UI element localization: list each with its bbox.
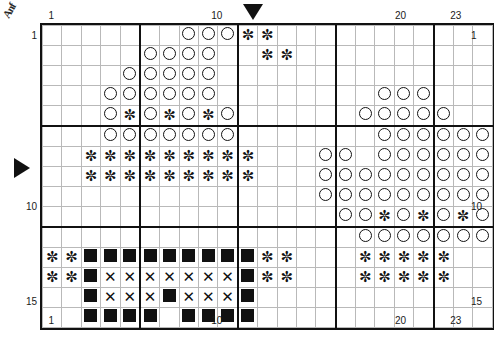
pattern-cell[interactable] — [277, 227, 296, 248]
pattern-cell[interactable] — [277, 268, 296, 288]
pattern-cell[interactable] — [375, 86, 394, 106]
pattern-cell[interactable] — [199, 126, 218, 147]
pattern-cell[interactable] — [81, 187, 100, 207]
pattern-cell[interactable] — [101, 308, 120, 328]
pattern-cell[interactable] — [296, 106, 315, 127]
pattern-cell[interactable] — [453, 167, 472, 187]
pattern-cell[interactable] — [316, 268, 336, 288]
pattern-cell[interactable] — [453, 227, 472, 248]
pattern-cell[interactable] — [199, 66, 218, 86]
pattern-cell[interactable] — [375, 147, 394, 167]
pattern-cell[interactable] — [336, 268, 356, 288]
pattern-cell[interactable] — [414, 106, 434, 127]
pattern-cell[interactable] — [394, 187, 413, 207]
pattern-cell[interactable] — [473, 86, 492, 106]
pattern-cell[interactable] — [394, 106, 413, 127]
pattern-cell[interactable] — [160, 187, 179, 207]
pattern-cell[interactable] — [81, 167, 100, 187]
pattern-cell[interactable] — [434, 167, 454, 187]
pattern-cell[interactable] — [218, 187, 238, 207]
pattern-cell[interactable] — [62, 26, 81, 46]
pattern-cell[interactable] — [43, 288, 62, 308]
pattern-cell[interactable] — [160, 207, 179, 228]
pattern-cell[interactable] — [43, 167, 62, 187]
pattern-cell[interactable] — [81, 248, 100, 268]
pattern-cell[interactable] — [81, 147, 100, 167]
pattern-cell[interactable] — [258, 308, 277, 328]
pattern-cell[interactable] — [160, 268, 179, 288]
pattern-cell[interactable] — [43, 26, 62, 46]
pattern-cell[interactable] — [179, 26, 198, 46]
pattern-cell[interactable] — [62, 227, 81, 248]
pattern-cell[interactable] — [199, 227, 218, 248]
pattern-cell[interactable] — [179, 46, 198, 66]
pattern-cell[interactable] — [296, 288, 315, 308]
pattern-cell[interactable] — [160, 106, 179, 127]
pattern-cell[interactable] — [101, 288, 120, 308]
pattern-cell[interactable] — [473, 227, 492, 248]
pattern-cell[interactable] — [258, 248, 277, 268]
pattern-cell[interactable] — [316, 147, 336, 167]
pattern-cell[interactable] — [238, 26, 258, 46]
pattern-cell[interactable] — [453, 126, 472, 147]
pattern-cell[interactable] — [356, 288, 375, 308]
pattern-cell[interactable] — [453, 46, 472, 66]
pattern-cell[interactable] — [277, 207, 296, 228]
pattern-cell[interactable] — [218, 288, 238, 308]
pattern-cell[interactable] — [62, 207, 81, 228]
pattern-cell[interactable] — [101, 26, 120, 46]
pattern-cell[interactable] — [199, 288, 218, 308]
pattern-cell[interactable] — [179, 268, 198, 288]
pattern-cell[interactable] — [356, 106, 375, 127]
pattern-cell[interactable] — [296, 308, 315, 328]
pattern-cell[interactable] — [336, 207, 356, 228]
pattern-cell[interactable] — [62, 86, 81, 106]
pattern-cell[interactable] — [414, 207, 434, 228]
pattern-cell[interactable] — [258, 66, 277, 86]
pattern-cell[interactable] — [277, 147, 296, 167]
pattern-cell[interactable] — [81, 288, 100, 308]
pattern-cell[interactable] — [453, 26, 472, 46]
pattern-cell[interactable] — [120, 227, 140, 248]
pattern-cell[interactable] — [453, 86, 472, 106]
pattern-cell[interactable] — [434, 187, 454, 207]
pattern-cell[interactable] — [316, 126, 336, 147]
pattern-cell[interactable] — [258, 268, 277, 288]
pattern-cell[interactable] — [101, 207, 120, 228]
pattern-cell[interactable] — [414, 26, 434, 46]
pattern-cell[interactable] — [434, 86, 454, 106]
pattern-cell[interactable] — [62, 248, 81, 268]
pattern-cell[interactable] — [238, 167, 258, 187]
pattern-cell[interactable] — [336, 227, 356, 248]
pattern-cell[interactable] — [81, 207, 100, 228]
pattern-cell[interactable] — [238, 288, 258, 308]
pattern-cell[interactable] — [140, 207, 160, 228]
pattern-cell[interactable] — [336, 86, 356, 106]
pattern-cell[interactable] — [375, 126, 394, 147]
pattern-cell[interactable] — [238, 268, 258, 288]
pattern-cell[interactable] — [179, 147, 198, 167]
pattern-cell[interactable] — [336, 66, 356, 86]
pattern-cell[interactable] — [120, 268, 140, 288]
pattern-cell[interactable] — [62, 167, 81, 187]
pattern-cell[interactable] — [43, 268, 62, 288]
pattern-cell[interactable] — [375, 66, 394, 86]
pattern-cell[interactable] — [218, 86, 238, 106]
pattern-cell[interactable] — [43, 147, 62, 167]
pattern-cell[interactable] — [218, 26, 238, 46]
pattern-cell[interactable] — [62, 268, 81, 288]
pattern-cell[interactable] — [120, 147, 140, 167]
pattern-cell[interactable] — [140, 248, 160, 268]
pattern-cell[interactable] — [62, 147, 81, 167]
pattern-cell[interactable] — [336, 46, 356, 66]
pattern-cell[interactable] — [375, 207, 394, 228]
pattern-cell[interactable] — [296, 66, 315, 86]
pattern-cell[interactable] — [238, 187, 258, 207]
pattern-cell[interactable] — [434, 66, 454, 86]
pattern-cell[interactable] — [199, 86, 218, 106]
pattern-cell[interactable] — [218, 46, 238, 66]
pattern-cell[interactable] — [336, 187, 356, 207]
pattern-cell[interactable] — [160, 308, 179, 328]
pattern-cell[interactable] — [316, 46, 336, 66]
pattern-cell[interactable] — [316, 187, 336, 207]
